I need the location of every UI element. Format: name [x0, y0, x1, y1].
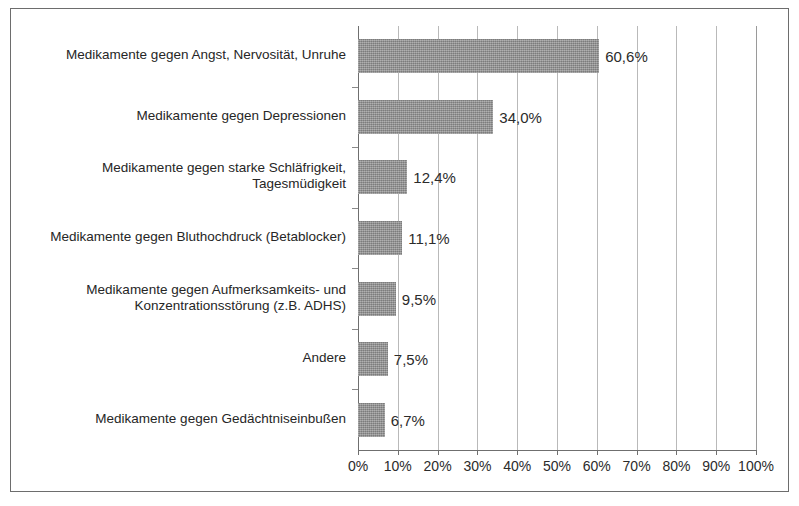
- x-tick-label-80: 80%: [662, 459, 690, 473]
- x-tick-label-100: 100%: [738, 459, 774, 473]
- bar-value-label: 6,7%: [391, 413, 425, 428]
- category-tick: [352, 389, 358, 390]
- category-tick: [352, 268, 358, 269]
- x-tick-label-70: 70%: [623, 459, 651, 473]
- category-label: Medikamente gegen Aufmerksamkeits- und K…: [19, 282, 346, 314]
- category-tick: [352, 147, 358, 148]
- category-label: Medikamente gegen Angst, Nervosität, Unr…: [19, 47, 346, 63]
- bar-value-label: 7,5%: [394, 352, 428, 367]
- x-tick-40: [517, 450, 518, 455]
- x-tick-label-20: 20%: [424, 459, 452, 473]
- gridline-50pct: [557, 26, 558, 450]
- category-tick: [352, 87, 358, 88]
- x-tick-70: [637, 450, 638, 455]
- x-tick-60: [597, 450, 598, 455]
- bar-value-label: 34,0%: [499, 110, 542, 125]
- category-label: Andere: [19, 350, 346, 366]
- gridline-70pct: [637, 26, 638, 450]
- x-tick-20: [438, 450, 439, 455]
- x-tick-label-30: 30%: [463, 459, 491, 473]
- x-tick-50: [557, 450, 558, 455]
- x-tick-30: [477, 450, 478, 455]
- bar: [358, 282, 396, 316]
- x-tick-label-40: 40%: [503, 459, 531, 473]
- x-tick-90: [716, 450, 717, 455]
- chart-frame: 0%10%20%30%40%50%60%70%80%90%100%60,6%Me…: [10, 8, 789, 492]
- bar-value-label: 9,5%: [402, 292, 436, 307]
- bar: [358, 100, 493, 134]
- bar: [358, 403, 385, 437]
- bar-value-label: 60,6%: [605, 49, 648, 64]
- x-tick-label-0: 0%: [348, 459, 368, 473]
- x-tick-label-90: 90%: [702, 459, 730, 473]
- bar: [358, 39, 599, 73]
- category-tick: [352, 329, 358, 330]
- bar: [358, 342, 388, 376]
- x-tick-label-10: 10%: [384, 459, 412, 473]
- bar: [358, 221, 402, 255]
- bar-value-label: 11,1%: [408, 231, 449, 246]
- gridline-40pct: [517, 26, 518, 450]
- bar: [358, 160, 407, 194]
- x-tick-80: [676, 450, 677, 455]
- x-tick-label-60: 60%: [583, 459, 611, 473]
- gridline-60pct: [597, 26, 598, 450]
- gridline-100pct: [756, 26, 757, 450]
- bar-value-label: 12,4%: [413, 170, 456, 185]
- category-label: Medikamente gegen Bluthochdruck (Betablo…: [19, 229, 346, 245]
- chart-screenshot: 0%10%20%30%40%50%60%70%80%90%100%60,6%Me…: [0, 0, 799, 506]
- gridline-80pct: [676, 26, 677, 450]
- x-tick-0: [358, 450, 359, 455]
- category-label: Medikamente gegen Gedächtniseinbußen: [19, 411, 346, 427]
- category-label: Medikamente gegen Depressionen: [19, 108, 346, 124]
- gridline-30pct: [477, 26, 478, 450]
- x-tick-100: [756, 450, 757, 455]
- x-tick-10: [398, 450, 399, 455]
- category-label: Medikamente gegen starke Schläfrigkeit, …: [19, 160, 346, 192]
- gridline-90pct: [716, 26, 717, 450]
- x-tick-label-50: 50%: [543, 459, 571, 473]
- category-tick: [352, 208, 358, 209]
